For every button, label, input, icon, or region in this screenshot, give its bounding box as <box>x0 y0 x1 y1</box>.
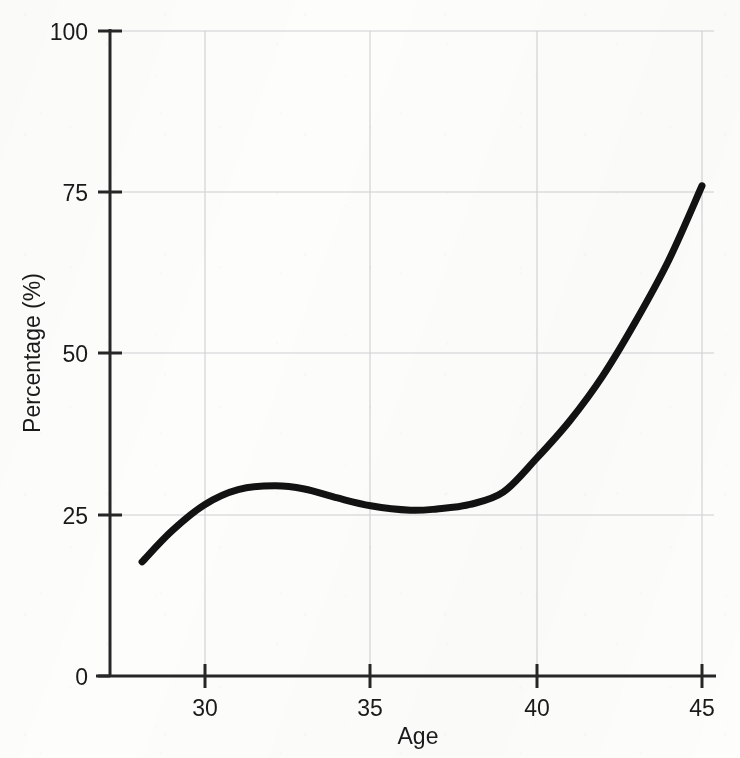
chart-page: 100 75 50 25 0 30 35 40 45 Age Percentag… <box>0 0 740 758</box>
line-chart: 100 75 50 25 0 30 35 40 45 Age Percentag… <box>0 0 740 758</box>
data-series-line <box>142 186 702 562</box>
y-tick-label-0: 0 <box>75 664 88 690</box>
x-tick-label-45: 45 <box>689 695 715 721</box>
x-tick-label-40: 40 <box>524 695 550 721</box>
y-tick-label-25: 25 <box>62 503 88 529</box>
grid-horizontal <box>110 31 714 515</box>
x-tick-label-30: 30 <box>192 695 218 721</box>
y-axis-title: Percentage (%) <box>19 273 45 433</box>
x-axis-title: Age <box>398 723 439 749</box>
y-tick-label-50: 50 <box>62 341 88 367</box>
y-tick-label-100: 100 <box>50 19 88 45</box>
y-tick-label-75: 75 <box>62 180 88 206</box>
x-tick-label-35: 35 <box>357 695 383 721</box>
